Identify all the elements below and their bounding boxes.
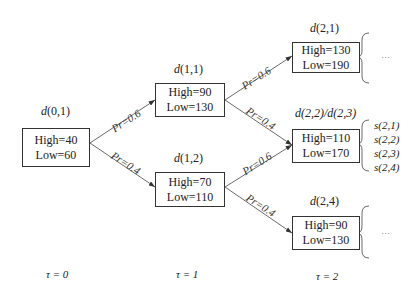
scenario-label: s(2,4) [374,161,399,173]
time-label-0: τ = 0 [46,268,68,280]
node-label-d24: d(2,4) [310,194,339,209]
high-value: High=70 [156,175,224,190]
node-label-d11: d(1,1) [174,62,203,77]
node-label-d01: d(0,1) [41,104,70,119]
time-label-2: τ = 2 [316,270,338,282]
low-value: Low=170 [293,146,359,161]
low-value: Low=110 [156,190,224,205]
edge-label: Pr=0.4 [243,191,278,219]
node-label-d21: d(2,1) [310,21,339,36]
edge-label: Pr=0.6 [239,149,274,177]
time-label-1: τ = 1 [176,268,198,280]
node-d12: High=70 Low=110 [155,172,225,207]
high-value: High=40 [23,133,89,148]
scenario-label: s(2,2) [374,133,399,145]
low-value: Low=190 [293,58,359,73]
high-value: High=90 [156,85,224,100]
node-d11: High=90 Low=130 [155,83,225,117]
node-d01: High=40 Low=60 [22,128,90,167]
low-value: Low=130 [293,233,359,248]
edge-label: Pr=0.6 [238,64,273,92]
high-value: High=90 [293,218,359,233]
ellipsis-top: ··· [381,52,390,62]
high-value: High=110 [293,131,359,146]
high-value: High=130 [293,43,359,58]
scenario-label: s(2,3) [374,147,399,159]
low-value: Low=130 [156,100,224,115]
low-value: Low=60 [23,148,89,163]
edge-label: Pr=0.4 [243,104,278,132]
node-d21: High=130 Low=190 [292,42,360,73]
edge-label: Pr=0.6 [108,107,143,135]
node-d22: High=110 Low=170 [292,129,360,163]
ellipsis-bottom: ··· [381,228,390,238]
node-label-d22: d(2,2)/d(2,3) [295,106,356,121]
scenario-label: s(2,1) [374,119,399,131]
node-d24: High=90 Low=130 [292,216,360,250]
edge-label: Pr=0.4 [108,148,143,176]
node-label-d12: d(1,2) [174,151,203,166]
